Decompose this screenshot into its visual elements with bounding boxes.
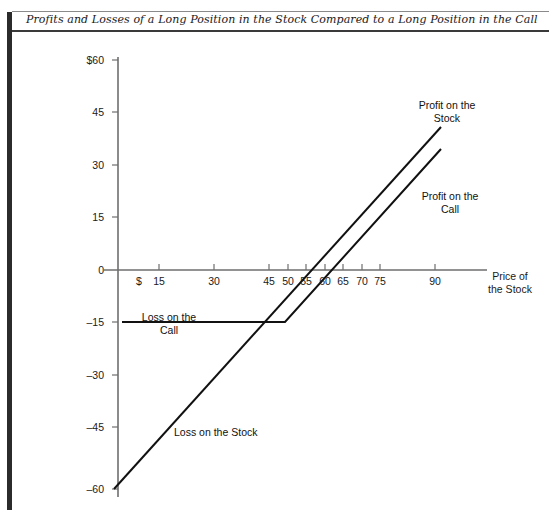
x-axis-ticks [159, 264, 435, 270]
annotation-loss-on-call-line1: Loss on the [130, 311, 208, 324]
annotation-profit-on-stock-line1: Profit on the [402, 99, 492, 112]
x-tick-label-60: 60 [315, 275, 335, 288]
annotation-loss-on-stock: Loss on the Stock [174, 426, 284, 439]
annotation-profit-on-call-line2: Call [405, 203, 495, 216]
annotation-loss-on-call: Loss on the Call [130, 311, 208, 337]
y-tick-label-60: $60 [68, 54, 104, 67]
annotation-profit-on-call-line1: Profit on the [405, 190, 495, 203]
x-tick-label-50: 50 [278, 275, 298, 288]
x-tick-label-45: 45 [259, 275, 279, 288]
x-tick-label-30: 30 [204, 275, 224, 288]
x-axis-title-line2: the Stock [478, 283, 542, 296]
annotation-profit-on-stock-line2: Stock [402, 112, 492, 125]
x-tick-label-65: 65 [333, 275, 353, 288]
y-tick-label-30: 30 [68, 159, 104, 172]
y-tick-label-0: 0 [68, 264, 104, 277]
y-tick-label-45: 45 [68, 106, 104, 119]
x-axis-title: Price of the Stock [478, 270, 542, 296]
annotation-profit-on-stock: Profit on the Stock [402, 99, 492, 125]
x-tick-label-90: 90 [425, 275, 445, 288]
y-tick-label-minus-15: –15 [64, 316, 104, 329]
figure-container: Profits and Losses of a Long Position in… [0, 0, 549, 515]
x-tick-label-75: 75 [370, 275, 390, 288]
x-axis-title-line1: Price of [478, 270, 542, 283]
x-tick-label-15: 15 [149, 275, 169, 288]
annotation-profit-on-call: Profit on the Call [405, 190, 495, 216]
y-tick-label-minus-45: –45 [64, 421, 104, 434]
x-tick-label-55: 55 [296, 275, 316, 288]
y-axis-ticks [112, 60, 118, 489]
y-tick-label-minus-30: –30 [64, 369, 104, 382]
y-tick-label-minus-60: –60 [64, 483, 104, 496]
y-tick-label-15: 15 [68, 211, 104, 224]
x-tick-label-dollar: $ [130, 275, 148, 288]
call-payoff-line [122, 149, 441, 322]
annotation-loss-on-call-line2: Call [130, 324, 208, 337]
x-tick-label-70: 70 [352, 275, 372, 288]
